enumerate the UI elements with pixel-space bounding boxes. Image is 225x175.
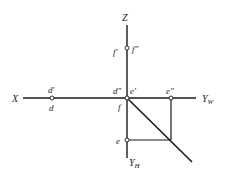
- label-e-double-prime: e″: [166, 86, 174, 96]
- projection-diagram: Z X YW YH f′ f″ d′ d d″ e′ f e″ e: [0, 0, 225, 175]
- label-e: e: [116, 136, 120, 146]
- axis-label-x: X: [11, 93, 19, 104]
- point-d-marker: [50, 96, 54, 100]
- label-f-double-prime: f″: [132, 44, 139, 54]
- axis-label-yw: YW: [202, 93, 215, 106]
- label-d-prime: d′: [48, 85, 56, 95]
- label-e-prime: e′: [130, 86, 137, 96]
- label-d: d: [49, 103, 54, 113]
- axis-label-yh: YH: [129, 157, 141, 170]
- label-f-prime: f′: [113, 47, 119, 57]
- point-e-marker: [125, 138, 129, 142]
- point-e-double-marker: [169, 96, 173, 100]
- label-f: f: [118, 102, 122, 112]
- point-f-marker: [125, 46, 129, 50]
- diagonal-line: [127, 98, 192, 162]
- label-d-double-prime: d″: [113, 86, 122, 96]
- axis-label-z: Z: [122, 12, 128, 23]
- point-origin-marker: [125, 96, 129, 100]
